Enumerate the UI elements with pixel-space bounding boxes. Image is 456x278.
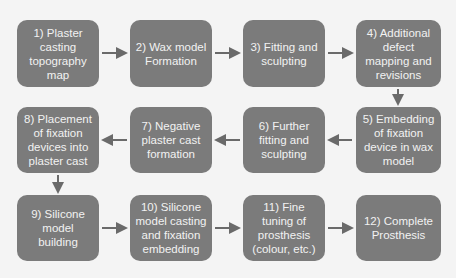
step-12-box: 12) Complete Prosthesis — [356, 195, 441, 261]
step-3-box: 3) Fitting and sculpting — [243, 20, 325, 87]
step-7-box: 7) Negative plaster cast formation — [130, 107, 212, 173]
step-10-box: 10) Silicone model casting and fixation … — [130, 195, 212, 261]
step-2-box: 2) Wax model Formation — [130, 20, 212, 87]
step-6-box: 6) Further fitting and sculpting — [243, 107, 325, 173]
step-1-box: 1) Plaster casting topography map — [17, 20, 99, 87]
step-12-label: 12) Complete Prosthesis — [360, 214, 437, 242]
step-11-label: 11) Fine tuning of prosthesis (colour, e… — [247, 200, 321, 256]
step-6-label: 6) Further fitting and sculpting — [247, 119, 321, 161]
step-9-label: 9) Silicone model building — [21, 207, 95, 249]
step-11-box: 11) Fine tuning of prosthesis (colour, e… — [243, 195, 325, 261]
step-5-label: 5) Embedding of fixation device in wax m… — [360, 112, 437, 168]
step-1-label: 1) Plaster casting topography map — [21, 26, 95, 82]
step-9-box: 9) Silicone model building — [17, 195, 99, 261]
step-4-label: 4) Additional defect mapping and revisio… — [360, 26, 437, 82]
step-7-label: 7) Negative plaster cast formation — [134, 119, 208, 161]
step-10-label: 10) Silicone model casting and fixation … — [134, 200, 208, 256]
step-8-box: 8) Placement of fixation devices into pl… — [17, 107, 99, 173]
step-4-box: 4) Additional defect mapping and revisio… — [356, 20, 441, 87]
step-8-label: 8) Placement of fixation devices into pl… — [21, 112, 95, 168]
step-2-label: 2) Wax model Formation — [134, 40, 208, 68]
step-3-label: 3) Fitting and sculpting — [247, 40, 321, 68]
step-5-box: 5) Embedding of fixation device in wax m… — [356, 107, 441, 173]
